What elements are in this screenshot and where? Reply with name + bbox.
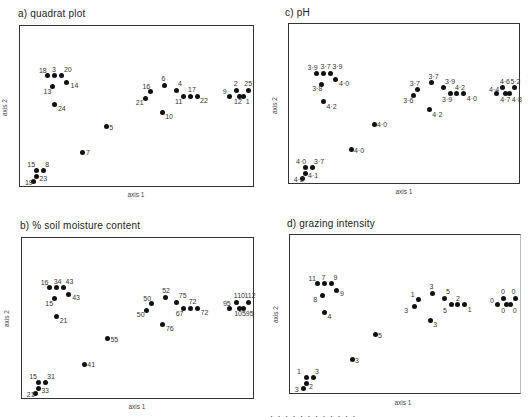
- data-point: [412, 304, 417, 309]
- data-point-label: 5: [443, 307, 447, 314]
- data-point-label: 3·9: [332, 63, 342, 70]
- data-point: [144, 308, 149, 313]
- data-point: [36, 380, 41, 385]
- data-point-label: 95: [223, 300, 231, 307]
- data-point: [500, 85, 505, 90]
- plot-frame: 3·93·73·94·03·84·24·04·04·03·74·14·23·73…: [288, 23, 520, 184]
- data-point-label: 3·6: [403, 97, 413, 104]
- data-point: [174, 300, 179, 305]
- data-point: [54, 314, 59, 319]
- data-point: [501, 296, 506, 301]
- data-point-label: 43: [66, 278, 74, 285]
- panel-title: b) % soil moisture content: [20, 220, 140, 231]
- data-point-label: 9: [223, 88, 227, 95]
- data-point: [315, 281, 320, 286]
- data-point: [427, 107, 432, 112]
- data-point: [54, 285, 59, 290]
- data-point-label: 4·2: [432, 111, 442, 118]
- data-point: [148, 89, 153, 94]
- plot-frame: 11799845313231335521300000: [289, 234, 521, 394]
- data-point-label: 5: [446, 288, 450, 295]
- data-point: [246, 88, 251, 93]
- data-point-label: 110: [234, 292, 245, 299]
- data-point-label: 3·7: [410, 80, 420, 87]
- data-point: [36, 386, 41, 391]
- x-axis-label: axis 1: [395, 399, 412, 406]
- data-point-label: 7: [322, 274, 326, 281]
- data-point-label: 4·2: [455, 84, 465, 91]
- data-point-label: 4·0: [296, 158, 306, 165]
- data-point-label: 15: [45, 300, 53, 307]
- data-point-label: 10: [165, 113, 173, 120]
- data-point: [512, 85, 517, 90]
- data-point: [329, 281, 334, 286]
- data-point-label: 55: [110, 336, 118, 343]
- data-point-label: 0: [513, 307, 517, 314]
- data-point-label: 3·9: [445, 78, 455, 85]
- data-point-label: 15: [29, 373, 37, 380]
- data-point: [321, 99, 326, 104]
- data-point-label: 75: [179, 292, 187, 299]
- data-point: [349, 147, 354, 152]
- data-point-label: 112: [244, 292, 255, 299]
- data-point: [61, 285, 66, 290]
- data-point-label: 5: [378, 332, 382, 339]
- data-point: [350, 357, 355, 362]
- data-point-label: 0: [490, 297, 494, 304]
- data-point-label: 4·7: [500, 96, 510, 103]
- data-point: [310, 165, 315, 170]
- data-point-label: 0: [501, 307, 505, 314]
- data-point: [415, 87, 420, 92]
- panel-title: a) quadrat plot: [18, 8, 86, 19]
- data-point: [322, 281, 327, 286]
- data-point: [301, 386, 306, 391]
- data-point-label: 14: [71, 82, 79, 89]
- data-point: [82, 362, 87, 367]
- data-point: [80, 150, 85, 155]
- data-point-label: 4·4: [489, 86, 499, 93]
- caption-text: · · · · · · · · · · · ·: [270, 411, 530, 417]
- data-point-label: 4·2: [327, 103, 337, 110]
- data-point-label: 21: [27, 391, 35, 398]
- data-point-label: 6: [161, 75, 165, 82]
- data-point-label: 7: [86, 149, 90, 156]
- data-point-label: 2: [456, 295, 460, 302]
- data-point: [333, 77, 338, 82]
- data-point-label: 11: [309, 275, 316, 282]
- y-axis-label: axis 2: [272, 306, 279, 323]
- data-point: [174, 88, 179, 93]
- data-point: [195, 306, 200, 311]
- data-point-label: 3·9: [442, 96, 452, 103]
- data-point: [66, 292, 71, 297]
- data-point: [429, 80, 434, 85]
- data-point-label: 4·0: [354, 147, 364, 154]
- data-point: [43, 380, 48, 385]
- x-axis-label: axis 1: [396, 188, 413, 195]
- data-point: [234, 88, 239, 93]
- data-point-label: 52: [162, 287, 170, 294]
- data-point-label: 33: [41, 387, 49, 394]
- data-point-label: 3: [404, 307, 408, 314]
- data-point-label: 1: [468, 306, 472, 313]
- data-point: [34, 174, 39, 179]
- data-point: [454, 91, 459, 96]
- data-point: [428, 318, 433, 323]
- data-point-label: 3·9: [308, 64, 318, 71]
- data-point: [495, 302, 500, 307]
- data-point: [52, 73, 57, 78]
- data-point: [449, 302, 454, 307]
- data-point-label: 20: [64, 66, 72, 73]
- x-axis-label: axis 1: [129, 403, 146, 410]
- data-point-label: 3: [295, 386, 299, 393]
- data-point: [304, 375, 309, 380]
- data-point: [47, 285, 52, 290]
- data-point-label: 34: [54, 278, 62, 285]
- data-point-label: 50: [143, 295, 151, 302]
- data-point-label: 21: [60, 317, 68, 324]
- data-point: [513, 296, 518, 301]
- y-axis-label: axis 2: [271, 97, 278, 114]
- data-point: [227, 94, 232, 99]
- data-point: [321, 71, 326, 76]
- data-point-label: 4·0: [467, 95, 477, 102]
- data-point-label: 3: [315, 368, 319, 375]
